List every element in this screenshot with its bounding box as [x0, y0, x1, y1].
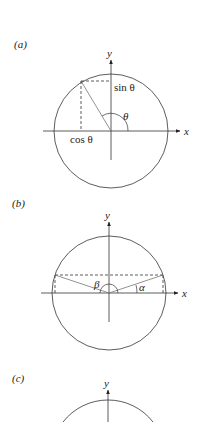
theta-label: θ — [123, 110, 129, 122]
unit-circle-figure: (a) x y sin θ cos θ θ (b) x y β α (c) — [0, 0, 205, 422]
x-axis-label-a: x — [183, 125, 189, 137]
panel-a-label: (a) — [14, 38, 27, 51]
panel-c-label: (c) — [12, 372, 25, 385]
y-axis-label-b: y — [104, 209, 110, 221]
panel-b-label: (b) — [12, 197, 25, 210]
x-axis-label-b: x — [181, 287, 187, 299]
alpha-arc — [136, 285, 137, 293]
sin-theta-label: sin θ — [114, 81, 135, 93]
cos-theta-label: cos θ — [70, 133, 93, 145]
panel-b: (b) x y β α — [12, 197, 187, 350]
panel-c: (c) y — [12, 372, 153, 422]
radius-line-a — [81, 81, 111, 131]
beta-label: β — [93, 278, 100, 290]
panel-a: (a) x y sin θ cos θ θ — [14, 38, 189, 188]
y-axis-label-c: y — [103, 377, 109, 389]
radius-line-beta — [55, 275, 109, 293]
alpha-label: α — [139, 281, 145, 293]
radius-line-alpha — [109, 275, 163, 293]
y-axis-label-a: y — [106, 47, 112, 59]
